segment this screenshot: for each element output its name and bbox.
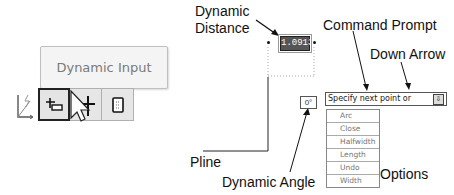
ucs-icon — [4, 89, 34, 119]
crosshair-icon — [73, 92, 99, 118]
option-length[interactable]: Length — [327, 149, 379, 162]
callout-dynamic-distance-line1: Dynamic — [195, 3, 249, 19]
command-prompt-tooltip: Specify next point or ⇩ — [325, 92, 447, 106]
dynamic-distance-input[interactable]: 1.0913 — [280, 36, 310, 51]
callout-dynamic-distance-line2: Distance — [195, 20, 249, 36]
crosshair-button[interactable] — [69, 88, 102, 121]
callout-pline: Pline — [190, 154, 221, 170]
status-toolbar — [0, 88, 134, 121]
dynamic-input-tooltip: Dynamic Input — [40, 46, 168, 89]
down-arrow-button[interactable]: ⇩ — [433, 94, 444, 105]
dimension-endpoint — [267, 41, 270, 44]
distance-value: 1.0913 — [281, 38, 313, 48]
dynamic-input-icon — [43, 94, 65, 116]
properties-button[interactable] — [101, 88, 134, 121]
properties-icon — [110, 96, 126, 114]
tooltip-label: Dynamic Input — [56, 60, 151, 75]
option-width[interactable]: Width — [327, 175, 379, 187]
callout-options: Options — [380, 166, 428, 182]
angle-value: 0° — [305, 98, 313, 107]
dimension-endpoint — [313, 41, 316, 44]
callout-down-arrow: Down Arrow — [370, 46, 445, 62]
option-undo[interactable]: Undo — [327, 162, 379, 175]
dynamic-angle-input[interactable]: 0° — [300, 96, 317, 109]
prompt-text: Specify next point or — [328, 94, 411, 103]
down-arrow-icon: ⇩ — [436, 95, 442, 103]
option-close[interactable]: Close — [327, 123, 379, 136]
ucs-button[interactable] — [0, 88, 39, 119]
callout-dynamic-angle: Dynamic Angle — [222, 174, 315, 190]
dynamic-input-button[interactable] — [38, 88, 70, 121]
pline-segment — [203, 77, 268, 151]
option-halfwidth[interactable]: Halfwidth — [327, 136, 379, 149]
option-arc[interactable]: Arc — [327, 110, 379, 123]
callout-command-prompt: Command Prompt — [323, 17, 437, 33]
options-menu: Arc Close Halfwidth Length Undo Width — [326, 109, 380, 188]
